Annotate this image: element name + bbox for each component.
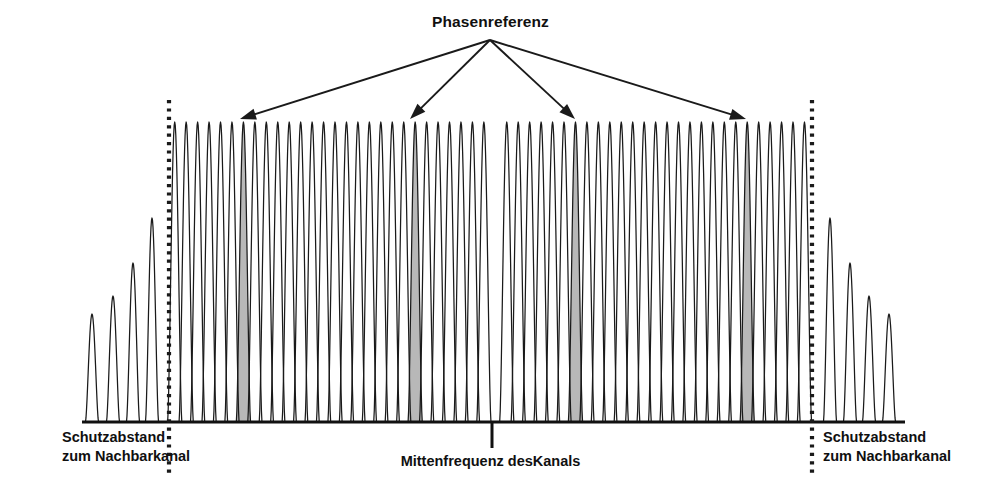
left-guard-band-line1: Schutzabstand xyxy=(62,428,190,447)
center-frequency-label: Mittenfrequenz desKanals xyxy=(0,452,981,471)
subcarrier-lobe-group xyxy=(168,122,812,422)
phase-reference-arrow-group xyxy=(240,40,746,120)
page-title: Phasenreferenz xyxy=(0,12,981,32)
right-guard-band-line1: Schutzabstand xyxy=(823,428,951,447)
spectrum-svg xyxy=(0,0,981,491)
frequency-axis-group xyxy=(82,422,905,448)
ofdm-spectrum-figure: Phasenreferenz Schutzabstand zum Nachbar… xyxy=(0,0,981,491)
